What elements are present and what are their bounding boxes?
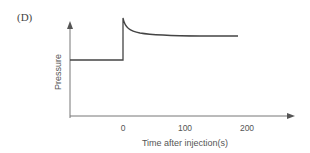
- x-tick-0: 0: [121, 123, 126, 133]
- x-axis-arrow-icon: [287, 113, 295, 119]
- x-tick-200: 200: [240, 123, 254, 133]
- y-axis-arrow-icon: [67, 21, 73, 29]
- y-axis-title: Pressure: [53, 54, 63, 90]
- x-axis-title: Time after injection(s): [142, 138, 228, 148]
- x-tick-100: 100: [178, 123, 192, 133]
- pressure-chart: 0 100 200 Time after injection(s) Pressu…: [0, 0, 310, 153]
- pressure-curve: [70, 18, 238, 60]
